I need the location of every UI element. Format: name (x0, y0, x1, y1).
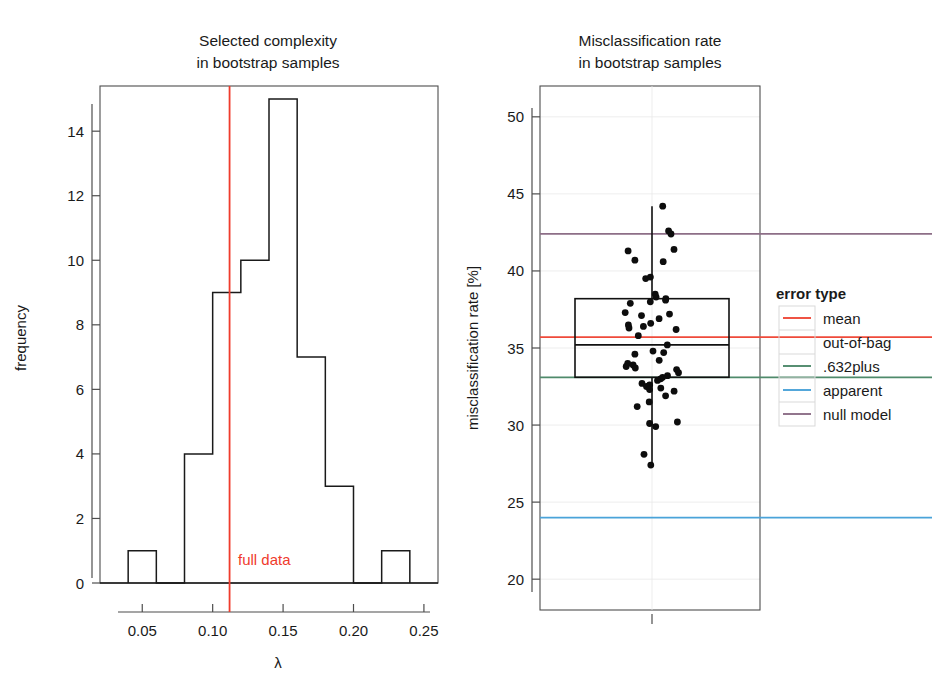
left-x-tick-label: 0.10 (198, 622, 227, 639)
data-point (662, 392, 669, 399)
data-point (632, 365, 639, 372)
legend-item-label: out-of-bag (823, 334, 891, 351)
left-y-tick-label: 12 (67, 187, 84, 204)
data-point (634, 403, 641, 410)
right-y-tick-label: 30 (507, 417, 524, 434)
right-panel-title-line2: in bootstrap samples (578, 54, 721, 71)
data-point (646, 386, 653, 393)
data-point (664, 342, 671, 349)
full-data-annotation: full data (238, 551, 291, 568)
left-y-tick-label: 0 (76, 575, 84, 592)
data-point (638, 312, 645, 319)
data-point (673, 326, 680, 333)
data-point (657, 385, 664, 392)
legend-title: error type (776, 285, 846, 302)
data-point (646, 399, 653, 406)
statistics-figure: Selected complexity in bootstrap samples… (0, 0, 932, 698)
data-point (666, 311, 673, 318)
left-y-tick-label: 10 (67, 252, 84, 269)
data-point (652, 423, 659, 430)
left-y-tick-label: 2 (76, 510, 84, 527)
data-point (635, 332, 642, 339)
data-point (622, 309, 629, 316)
right-y-tick-label: 35 (507, 340, 524, 357)
data-point (671, 246, 678, 253)
right-y-tick-label: 50 (507, 108, 524, 125)
data-point (659, 203, 666, 210)
left-y-tick-label: 8 (76, 316, 84, 333)
data-point (646, 420, 653, 427)
data-point (640, 323, 647, 330)
data-point (675, 369, 682, 376)
data-point (642, 275, 649, 282)
left-panel-title-line2: in bootstrap samples (196, 54, 339, 71)
data-point (668, 231, 675, 238)
data-point (654, 377, 661, 384)
data-point (671, 388, 678, 395)
left-y-tick-label: 4 (76, 445, 84, 462)
left-x-axis-label: λ (274, 654, 282, 671)
right-panel-title-line1: Misclassification rate (579, 32, 722, 49)
data-point (656, 357, 663, 364)
data-point (625, 248, 632, 255)
left-x-tick-label: 0.20 (339, 622, 368, 639)
right-y-axis-label: misclassification rate [%] (464, 266, 481, 430)
data-point (647, 320, 654, 327)
left-x-tick-label: 0.05 (128, 622, 157, 639)
data-point (674, 419, 681, 426)
left-x-tick-label: 0.25 (409, 622, 438, 639)
right-y-tick-label: 25 (507, 494, 524, 511)
data-point (647, 462, 654, 469)
figure-container: Selected complexity in bootstrap samples… (0, 0, 932, 698)
left-x-tick-label: 0.15 (268, 622, 297, 639)
data-point (632, 257, 639, 264)
left-y-tick-label: 6 (76, 381, 84, 398)
right-y-tick-label: 40 (507, 262, 524, 279)
data-point (632, 351, 639, 358)
left-y-axis-label: frequency (12, 305, 29, 371)
legend-item-label: null model (823, 406, 891, 423)
data-point (626, 325, 633, 332)
left-panel-title-line1: Selected complexity (199, 32, 337, 49)
left-y-tick-label: 14 (67, 123, 84, 140)
data-point (641, 451, 648, 458)
data-point (650, 348, 657, 355)
data-point (656, 315, 663, 322)
legend-item-label: mean (823, 310, 861, 327)
data-point (653, 294, 660, 301)
data-point (660, 349, 667, 356)
data-point (647, 298, 654, 305)
right-y-tick-label: 45 (507, 185, 524, 202)
data-point (660, 258, 667, 265)
data-point (662, 297, 669, 304)
data-point (627, 300, 634, 307)
legend-item-label: .632plus (823, 358, 880, 375)
data-point (623, 363, 630, 370)
right-y-tick-label: 20 (507, 571, 524, 588)
legend-item-label: apparent (823, 382, 883, 399)
